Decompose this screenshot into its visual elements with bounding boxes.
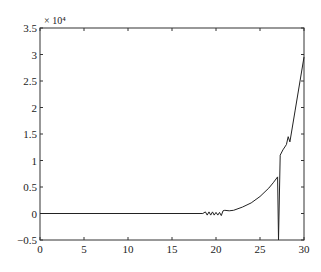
line-chart: −0.500.511.522.533.5 051015202530 × 10⁴ bbox=[0, 0, 321, 272]
axes-frame bbox=[40, 28, 304, 240]
data-line bbox=[40, 57, 304, 240]
x-tick-label: 25 bbox=[255, 243, 267, 255]
y-tick-label: 0.5 bbox=[23, 181, 37, 193]
y-axis: −0.500.511.522.533.5 bbox=[17, 22, 304, 246]
y-tick-label: 2.5 bbox=[23, 75, 37, 87]
y-tick-label: 1.5 bbox=[23, 128, 37, 140]
x-tick-label: 30 bbox=[299, 243, 311, 255]
x-tick-label: 10 bbox=[123, 243, 135, 255]
plot-area bbox=[40, 28, 304, 240]
x-tick-label: 15 bbox=[167, 243, 179, 255]
y-tick-label: 0 bbox=[32, 208, 38, 220]
y-multiplier-label: × 10⁴ bbox=[44, 15, 66, 26]
y-tick-label: 3.5 bbox=[23, 22, 37, 34]
x-tick-label: 0 bbox=[37, 243, 43, 255]
y-tick-label: 3 bbox=[32, 49, 38, 61]
x-tick-label: 20 bbox=[211, 243, 223, 255]
y-tick-label: 2 bbox=[32, 102, 38, 114]
x-axis: 051015202530 bbox=[37, 28, 310, 255]
x-tick-label: 5 bbox=[81, 243, 87, 255]
y-tick-label: −0.5 bbox=[17, 234, 37, 246]
y-tick-label: 1 bbox=[32, 155, 38, 167]
